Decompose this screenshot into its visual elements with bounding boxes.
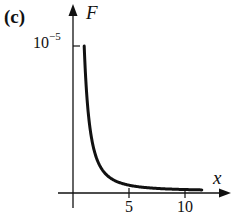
- y-tick-label-exp: −5: [49, 30, 61, 42]
- x-axis-arrow-icon: [219, 189, 231, 198]
- y-tick-label: 10−5: [33, 32, 61, 52]
- y-tick-label-base: 10: [33, 34, 49, 51]
- panel-label: (c): [4, 6, 25, 28]
- x-tick-label-5: 5: [125, 198, 133, 216]
- series-line-F: [84, 46, 202, 190]
- y-axis-arrow-icon: [69, 4, 78, 16]
- x-axis-label: x: [213, 167, 221, 189]
- x-tick-label-10: 10: [177, 198, 193, 216]
- y-axis-label: F: [86, 2, 98, 24]
